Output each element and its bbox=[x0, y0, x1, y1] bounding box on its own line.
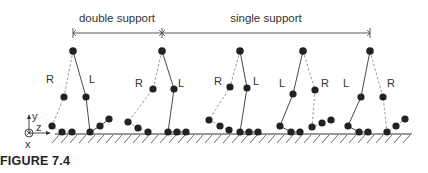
gait-diagram: double support single support RLRLRLRLRL… bbox=[0, 0, 428, 173]
joint-marker bbox=[276, 122, 283, 129]
joint-marker bbox=[124, 118, 131, 125]
right-leg-label: R bbox=[214, 75, 222, 87]
single-support-label: single support bbox=[230, 12, 302, 24]
coordinate-axes: y z x bbox=[25, 110, 51, 150]
right-leg bbox=[370, 51, 405, 132]
joint-marker bbox=[182, 128, 189, 135]
joint-marker bbox=[327, 116, 334, 123]
pose-3: RL bbox=[205, 47, 261, 135]
hip-joint bbox=[236, 47, 244, 55]
joint-marker bbox=[82, 93, 89, 100]
joint-marker bbox=[383, 128, 390, 135]
joint-marker bbox=[289, 90, 296, 97]
left-leg-label: L bbox=[89, 73, 95, 85]
left-leg-label: L bbox=[279, 77, 285, 89]
joint-marker bbox=[355, 128, 362, 135]
pose-2: RL bbox=[124, 47, 189, 135]
hip-joint bbox=[299, 47, 307, 55]
figure-caption: FIGURE 7.4 bbox=[0, 154, 70, 168]
joint-marker bbox=[144, 128, 151, 135]
joint-marker bbox=[170, 85, 177, 92]
joint-marker bbox=[226, 83, 233, 90]
joint-marker bbox=[344, 122, 351, 129]
right-leg-label: R bbox=[387, 77, 395, 89]
joint-marker bbox=[134, 124, 141, 131]
right-leg-label: R bbox=[321, 77, 329, 89]
pose-5: RL bbox=[343, 47, 409, 135]
right-leg bbox=[52, 51, 73, 132]
joint-marker bbox=[296, 128, 303, 135]
joint-marker bbox=[245, 128, 252, 135]
joint-marker bbox=[96, 122, 103, 129]
double-support-label: double support bbox=[79, 12, 156, 24]
joint-marker bbox=[173, 128, 180, 135]
left-leg bbox=[240, 51, 258, 132]
left-leg bbox=[73, 51, 109, 132]
joint-marker bbox=[392, 122, 399, 129]
joint-marker bbox=[68, 128, 75, 135]
pose-1: RL bbox=[46, 47, 113, 135]
hip-joint bbox=[366, 47, 374, 55]
left-leg bbox=[348, 51, 370, 132]
joint-marker bbox=[357, 93, 364, 100]
joint-marker bbox=[86, 128, 93, 135]
pose-4: RL bbox=[276, 47, 334, 135]
joint-marker bbox=[254, 128, 261, 135]
joint-marker bbox=[364, 128, 371, 135]
joint-marker bbox=[308, 123, 315, 130]
right-leg-label: R bbox=[46, 73, 54, 85]
joint-marker bbox=[58, 128, 65, 135]
x-axis-label: x bbox=[25, 138, 31, 150]
hip-joint bbox=[69, 47, 77, 55]
z-axis-label: z bbox=[36, 121, 42, 133]
hip-joint bbox=[158, 47, 166, 55]
joint-marker bbox=[164, 128, 171, 135]
joint-marker bbox=[60, 93, 67, 100]
right-leg bbox=[128, 51, 162, 132]
joint-marker bbox=[236, 128, 243, 135]
joint-marker bbox=[149, 85, 156, 92]
joint-marker bbox=[287, 128, 294, 135]
left-leg-label: L bbox=[343, 77, 349, 89]
joint-marker bbox=[318, 119, 325, 126]
joint-marker bbox=[216, 122, 223, 129]
joint-marker bbox=[48, 122, 55, 129]
joint-marker bbox=[401, 115, 408, 122]
left-leg-label: L bbox=[178, 77, 184, 89]
right-leg-label: R bbox=[135, 77, 143, 89]
joint-marker bbox=[311, 86, 318, 93]
joint-marker bbox=[205, 116, 212, 123]
joint-marker bbox=[379, 93, 386, 100]
joint-marker bbox=[243, 84, 250, 91]
phase-bar: double support single support bbox=[73, 12, 370, 38]
right-leg bbox=[209, 51, 240, 130]
walking-poses: RLRLRLRLRL bbox=[46, 47, 409, 135]
left-leg-label: L bbox=[253, 75, 259, 87]
joint-marker bbox=[105, 115, 112, 122]
joint-marker bbox=[225, 126, 232, 133]
